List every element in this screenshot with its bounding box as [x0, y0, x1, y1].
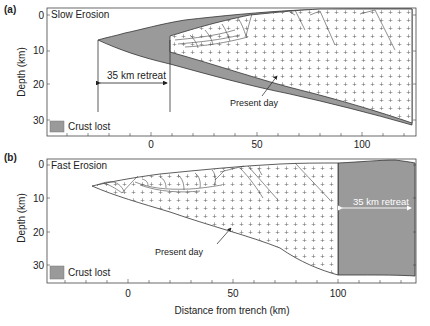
- crust-lost-area-b: [338, 160, 415, 276]
- panel-label-a: (a): [4, 4, 16, 15]
- panel-title-b: Fast Erosion: [51, 160, 107, 171]
- xlabel: Distance from trench (km): [174, 305, 289, 316]
- xtick-a-100: 100: [354, 139, 371, 150]
- ytick-a-0: 0: [38, 10, 44, 21]
- panel-title-a: Slow Erosion: [51, 9, 109, 20]
- retreat-label-a: 35 km retreat: [107, 70, 166, 81]
- panel-a: (a) 35 km retreat: [4, 4, 416, 150]
- present-day-label-a: Present day: [230, 98, 279, 108]
- ytick-a-30: 30: [33, 115, 45, 126]
- ytick-b-10: 10: [33, 193, 45, 204]
- ytick-a-20: 20: [33, 79, 45, 90]
- figure-canvas: + + (a): [0, 0, 430, 326]
- xtick-a-0: 0: [148, 139, 154, 150]
- xtick-b-100: 100: [330, 288, 347, 299]
- present-day-label-b: Present day: [155, 247, 204, 257]
- panel-label-b: (b): [4, 152, 17, 163]
- legend-label-b: Crust lost: [68, 267, 110, 278]
- legend-label-a: Crust lost: [68, 121, 110, 132]
- legend-swatch-a: [50, 121, 64, 132]
- ylabel-a: Depth (km): [16, 47, 27, 96]
- ytick-b-0: 0: [38, 159, 44, 170]
- ytick-b-20: 20: [33, 227, 45, 238]
- legend-swatch-b: [50, 266, 64, 279]
- xtick-a-50: 50: [251, 139, 263, 150]
- panel-b: (b) 35 km retreat: [4, 152, 416, 299]
- ytick-a-10: 10: [33, 45, 45, 56]
- xtick-b-0: 0: [125, 288, 131, 299]
- xtick-b-50: 50: [227, 288, 239, 299]
- ylabel-b: Depth (km): [16, 193, 27, 242]
- ytick-b-30: 30: [33, 260, 45, 271]
- retreat-label-b: 35 km retreat: [353, 196, 409, 207]
